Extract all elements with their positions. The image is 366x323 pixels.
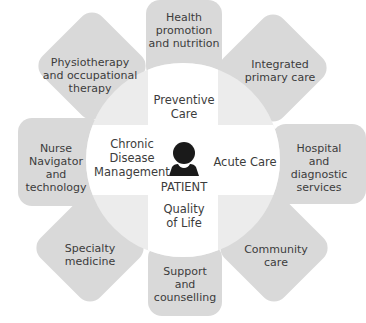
patient-care-diagram: Health promotion and nutrition Integrate… xyxy=(0,0,366,323)
petal-label-integrated-primary-care: Integrated primary care xyxy=(245,58,315,84)
petal-label-physiotherapy: Physiotherapy and occupational therapy xyxy=(43,56,138,95)
petal-label-specialty-medicine: Specialty medicine xyxy=(65,242,115,268)
hub-label-quality-of-life: Quality of Life xyxy=(163,202,204,230)
hub-label-preventive-care: Preventive Care xyxy=(153,93,214,121)
petal-label-nurse-navigator: Nurse Navigator and technology xyxy=(25,142,86,194)
center-label-patient: PATIENT xyxy=(161,180,207,194)
hub-label-chronic-disease: Chronic Disease Management xyxy=(94,137,170,179)
petal-label-community-care: Community care xyxy=(244,243,308,269)
petal-label-support-counselling: Support and counselling xyxy=(154,265,216,304)
petal-label-hospital-diagnostic: Hospital and diagnostic services xyxy=(291,142,348,194)
person-icon xyxy=(169,142,199,176)
hub-label-acute-care: Acute Care xyxy=(213,155,276,169)
petal-label-health-promotion: Health promotion and nutrition xyxy=(148,11,219,50)
